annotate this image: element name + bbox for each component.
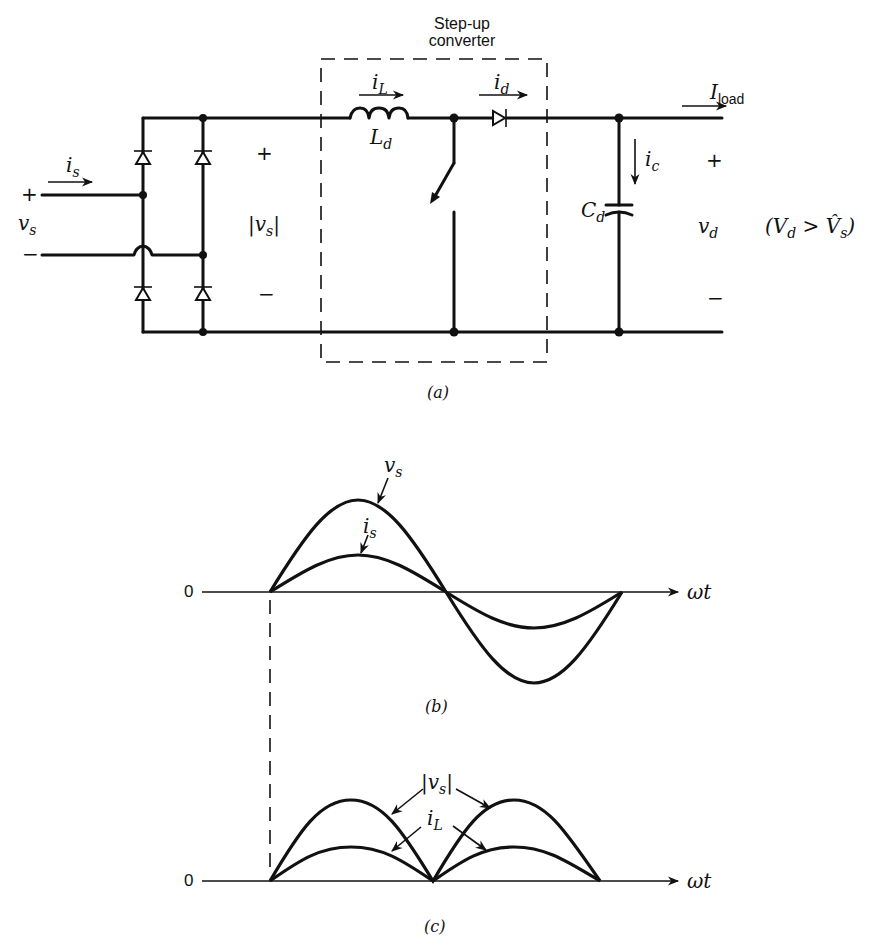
- diode-icon: [134, 151, 152, 164]
- waveform-panel-c: [202, 789, 678, 881]
- axis-label-b: ωt: [687, 582, 711, 602]
- label-iload: Iload: [710, 82, 744, 102]
- label-rect-abs-vs: |vs|: [248, 214, 280, 234]
- label-is: is: [66, 155, 80, 175]
- capacitor-icon: [606, 114, 632, 337]
- label-curve-abs-vs: |vs|: [421, 772, 453, 792]
- label-rect-minus: −: [258, 284, 275, 304]
- label-ic: ic: [645, 149, 659, 169]
- waveform-panel-b: [202, 478, 678, 683]
- caption-a: (a): [427, 383, 449, 402]
- diode-icon: [134, 287, 152, 300]
- diode-icon: [194, 287, 212, 300]
- inductor-icon: [350, 108, 493, 118]
- step-up-converter-boundary: [321, 59, 547, 362]
- axis-label-c: ωt: [687, 871, 711, 891]
- diode-icon: [493, 109, 506, 127]
- label-vs-minus: −: [22, 244, 39, 264]
- block-title: Step-up converter: [416, 16, 508, 50]
- label-Cd: Cd: [581, 200, 605, 220]
- label-vd-minus: −: [707, 288, 724, 308]
- switch-icon: [430, 118, 454, 332]
- label-curve-is: is: [363, 516, 377, 536]
- label-rect-plus: +: [256, 143, 273, 163]
- label-vd: vd: [698, 216, 718, 236]
- diode-icon: [194, 151, 212, 164]
- caption-c: (c): [424, 917, 445, 936]
- label-iL: iL: [372, 72, 388, 92]
- label-vs: vs: [18, 213, 37, 233]
- label-curve-iL: iL: [427, 808, 443, 828]
- caption-b: (b): [425, 697, 448, 716]
- block-title-line1: Step-up: [416, 16, 508, 33]
- block-title-line2: converter: [416, 33, 508, 50]
- label-id: id: [494, 72, 509, 92]
- label-condition: (Vd > V̂s): [765, 216, 855, 236]
- label-Ld: Ld: [370, 127, 392, 147]
- origin-label-c: 0: [184, 872, 193, 890]
- label-vs-plus: +: [21, 184, 38, 204]
- origin-label-b: 0: [184, 583, 193, 601]
- label-vd-plus: +: [706, 150, 723, 170]
- label-curve-vs: vs: [384, 455, 403, 475]
